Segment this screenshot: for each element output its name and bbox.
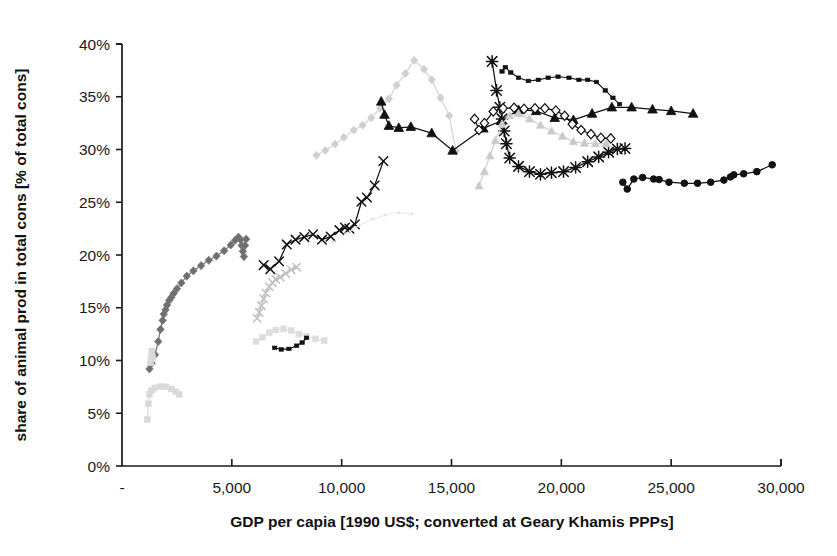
data-point-marker <box>666 179 673 186</box>
series-line <box>502 67 620 104</box>
chart-figure: 0%5%10%15%20%25%30%35%40%-5,00010,00015,… <box>0 0 837 556</box>
x-tick-label: - <box>119 479 124 496</box>
data-point-marker <box>288 327 294 333</box>
data-point-marker <box>437 94 444 102</box>
data-point-marker <box>163 384 169 390</box>
data-point-marker <box>213 252 220 260</box>
data-point-marker <box>150 354 156 360</box>
series-series-pale-gray-low-cluster <box>253 326 327 345</box>
data-point-marker <box>617 102 621 106</box>
data-point-marker <box>300 341 304 345</box>
data-point-marker <box>516 76 520 80</box>
data-point-marker <box>577 78 581 82</box>
x-tick-label: 30,000 <box>757 479 805 496</box>
data-point-marker <box>287 347 291 351</box>
data-point-marker <box>280 326 286 332</box>
data-point-marker <box>526 79 530 83</box>
y-axis-title: share of animal prod in total cons [% of… <box>12 69 29 442</box>
data-point-marker <box>619 143 630 154</box>
x-tick-label: 5,000 <box>212 479 251 496</box>
data-point-marker <box>535 169 546 180</box>
series-series-mid-gray-crosses <box>253 263 300 322</box>
data-point-marker <box>321 146 328 154</box>
scatter-chart-canvas: 0%5%10%15%20%25%30%35%40%-5,00010,00015,… <box>0 0 837 556</box>
data-series-layer <box>144 56 775 423</box>
data-point-marker <box>594 80 598 84</box>
series-series-black-triangles <box>376 96 697 154</box>
data-point-marker <box>370 181 379 190</box>
data-point-marker <box>491 136 499 143</box>
data-point-marker <box>363 193 372 202</box>
data-point-marker <box>607 102 617 111</box>
data-point-marker <box>577 125 585 134</box>
data-point-marker <box>446 112 453 120</box>
data-point-marker <box>585 78 589 82</box>
data-point-marker <box>157 325 164 333</box>
data-point-marker <box>556 75 560 79</box>
series-series-open-diamonds <box>470 103 615 143</box>
data-point-marker <box>351 220 360 229</box>
data-point-marker <box>524 166 535 177</box>
series-series-light-gray-diamonds-peak <box>313 56 460 159</box>
data-point-marker <box>597 133 605 142</box>
data-point-marker <box>242 235 249 243</box>
data-point-marker <box>624 186 631 193</box>
data-point-marker <box>321 337 327 343</box>
data-point-marker <box>603 89 607 93</box>
y-tick-label: 30% <box>79 141 110 158</box>
data-point-marker <box>176 391 182 397</box>
data-point-marker <box>620 179 627 186</box>
data-point-marker <box>344 232 347 235</box>
x-axis-title: GDP per capia [1990 US$; converted at Ge… <box>230 513 673 530</box>
y-tick-label: 10% <box>79 352 110 369</box>
data-point-marker <box>266 330 272 336</box>
data-point-marker <box>275 257 284 266</box>
x-tick-label: 15,000 <box>428 479 476 496</box>
data-point-marker <box>491 85 502 96</box>
series-series-black-dash-squares <box>500 65 622 106</box>
series-series-pale-gray-bottom-left <box>144 383 182 422</box>
data-point-marker <box>587 130 595 139</box>
data-point-marker <box>631 176 638 183</box>
data-point-marker <box>410 212 413 215</box>
data-point-marker <box>569 137 577 144</box>
data-point-marker <box>603 147 614 158</box>
data-point-marker <box>379 157 388 166</box>
data-point-marker <box>470 114 478 123</box>
data-point-marker <box>149 348 155 354</box>
data-point-marker <box>707 179 714 186</box>
data-point-marker <box>570 162 581 173</box>
series-line <box>149 237 246 369</box>
data-point-marker <box>205 256 212 264</box>
data-point-marker <box>144 417 150 423</box>
data-point-marker <box>258 302 265 309</box>
data-point-marker <box>145 401 151 407</box>
data-point-marker <box>260 334 266 340</box>
data-point-marker <box>536 121 544 128</box>
data-point-marker <box>197 261 204 269</box>
data-point-marker <box>358 224 361 227</box>
data-point-marker <box>486 152 494 159</box>
data-point-marker <box>627 102 637 111</box>
data-point-marker <box>546 76 550 80</box>
data-point-marker <box>318 235 327 244</box>
data-point-marker <box>272 346 276 350</box>
data-point-marker <box>509 71 513 75</box>
data-point-marker <box>582 156 593 167</box>
data-point-marker <box>501 138 512 149</box>
y-tick-label: 40% <box>79 36 110 53</box>
data-point-marker <box>480 167 488 174</box>
data-point-marker <box>350 126 357 134</box>
data-point-marker <box>376 96 386 105</box>
data-point-marker <box>547 127 555 134</box>
data-point-marker <box>313 151 320 159</box>
data-point-marker <box>304 336 308 340</box>
data-point-marker <box>326 232 335 241</box>
series-series-black-circles <box>620 161 776 192</box>
data-point-marker <box>371 217 374 220</box>
data-point-marker <box>159 316 166 324</box>
data-point-marker <box>279 348 283 352</box>
data-point-marker <box>253 339 259 345</box>
data-point-marker <box>291 235 300 244</box>
data-point-marker <box>157 383 163 389</box>
